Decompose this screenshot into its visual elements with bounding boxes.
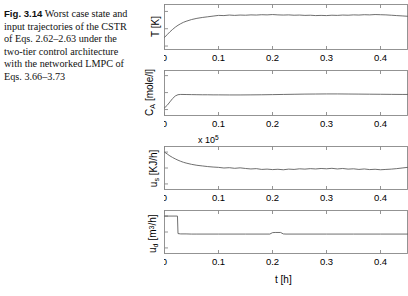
figure-caption-text: Worst case state and input trajectories …	[4, 8, 127, 82]
panel-concentration: CA [mole/l] 3.43.63.800.10.20.30.4	[140, 66, 408, 132]
axis-label-heat-input-text: us [KJ/h]	[149, 149, 162, 187]
svg-text:0.4: 0.4	[374, 118, 387, 129]
svg-text:0: 0	[164, 256, 167, 267]
figure-caption: Fig. 3.14 Worst case state and input tra…	[4, 8, 134, 84]
figure-page: Fig. 3.14 Worst case state and input tra…	[0, 0, 408, 296]
axes-temperature: 37038039000.10.20.30.4	[164, 4, 408, 64]
svg-text:0: 0	[164, 192, 167, 203]
figure-number: Fig. 3.14	[4, 8, 42, 19]
axis-multiplier-heat-input: x 105	[198, 134, 219, 145]
axis-label-temperature: T [K]	[146, 0, 164, 52]
svg-text:0.3: 0.3	[320, 52, 333, 63]
axis-label-flow-input-text: ud [m3/h]	[146, 215, 159, 254]
axis-label-concentration-text: CA [mole/l]	[145, 68, 158, 115]
svg-text:0.1: 0.1	[212, 192, 225, 203]
svg-text:0.4: 0.4	[374, 192, 387, 203]
svg-text:0.3: 0.3	[320, 256, 333, 267]
panel-temperature: T [K] 37038039000.10.20.30.4	[140, 0, 408, 66]
svg-text:0.2: 0.2	[266, 52, 279, 63]
axis-label-temperature-text: T [K]	[150, 16, 161, 37]
svg-text:0.3: 0.3	[320, 192, 333, 203]
svg-text:0.1: 0.1	[212, 256, 225, 267]
svg-text:0.4: 0.4	[374, 52, 387, 63]
svg-text:0.2: 0.2	[266, 256, 279, 267]
svg-text:0.3: 0.3	[320, 118, 333, 129]
axis-label-heat-input: us [KJ/h]	[146, 142, 164, 194]
figure-plots: T [K] 37038039000.10.20.30.4 CA [mole/l]…	[140, 0, 408, 296]
svg-text:0.1: 0.1	[212, 118, 225, 129]
axis-label-concentration: CA [mole/l]	[142, 66, 160, 118]
panel-flow-input: ud [m3/h] -10100.10.20.30.4 t [h]	[140, 206, 408, 296]
svg-text:0: 0	[164, 118, 167, 129]
panel-heat-input: x 105 us [KJ/h] -10100.10.20.30.4	[140, 134, 408, 206]
axis-title-x: t [h]	[275, 274, 292, 285]
svg-text:0.2: 0.2	[266, 192, 279, 203]
svg-text:0.4: 0.4	[374, 256, 387, 267]
svg-text:0.1: 0.1	[212, 52, 225, 63]
svg-text:0.2: 0.2	[266, 118, 279, 129]
axes-flow-input: -10100.10.20.30.4	[164, 210, 408, 268]
axis-label-flow-input: ud [m3/h]	[144, 206, 162, 262]
svg-text:0: 0	[164, 52, 167, 63]
axes-concentration: 3.43.63.800.10.20.30.4	[164, 70, 408, 130]
axes-heat-input: -10100.10.20.30.4	[164, 146, 408, 204]
